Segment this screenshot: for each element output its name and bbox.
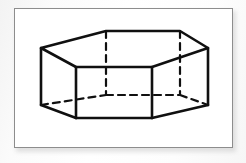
top-hexagon-face — [41, 31, 208, 67]
figure-canvas — [0, 0, 246, 163]
visible-edge-bottom-front-right — [152, 105, 208, 118]
visible-edges-group — [41, 31, 208, 118]
hexagonal-prism-drawing — [0, 0, 246, 163]
hidden-edge-bottom-left — [41, 95, 106, 105]
hidden-edge-bottom-right — [180, 95, 208, 105]
visible-edge-bottom-front-left — [41, 105, 76, 118]
